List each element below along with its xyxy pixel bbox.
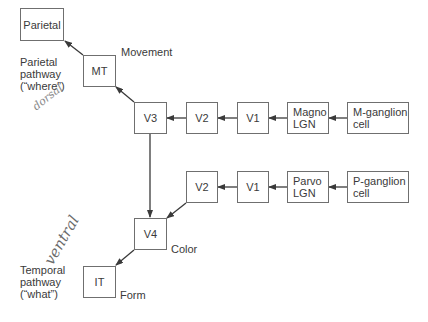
arrow-v4-to-it	[116, 250, 134, 265]
node-v1-bottom-label: V1	[246, 181, 259, 193]
node-v2-top: V2	[186, 102, 218, 134]
node-v1-bottom: V1	[237, 171, 269, 203]
node-it: IT	[83, 266, 116, 298]
node-v4-label: V4	[144, 228, 157, 240]
node-mt-label: MT	[92, 65, 108, 77]
node-magno-lgn: Magno LGN	[287, 102, 329, 134]
node-m-ganglion: M-ganglion cell	[347, 102, 409, 134]
arrow-v3-to-mt	[116, 87, 134, 102]
label-movement: Movement	[121, 46, 172, 58]
node-v2-bottom: V2	[186, 171, 218, 203]
node-v4: V4	[134, 218, 167, 250]
arrow-v2-to-v4	[167, 203, 186, 218]
node-p-ganglion: P-ganglion cell	[347, 171, 409, 203]
node-it-label: IT	[95, 276, 105, 288]
node-parietal: Parietal	[20, 8, 64, 41]
node-p-ganglion-label: P-ganglion cell	[353, 175, 406, 199]
node-m-ganglion-label: M-ganglion cell	[353, 106, 407, 130]
node-v3: V3	[134, 102, 167, 134]
node-parietal-label: Parietal	[23, 19, 60, 31]
node-v1-top: V1	[237, 102, 269, 134]
node-magno-lgn-label: Magno LGN	[293, 106, 327, 130]
node-v2-bottom-label: V2	[195, 181, 208, 193]
label-temporal-pathway: Temporal pathway (“what”)	[20, 264, 65, 300]
label-color: Color	[171, 243, 197, 255]
arrow-mt-to-parietal	[65, 41, 83, 55]
node-v3-label: V3	[144, 112, 157, 124]
node-parvo-lgn-label: Parvo LGN	[293, 175, 322, 199]
label-form: Form	[120, 289, 146, 301]
node-parvo-lgn: Parvo LGN	[287, 171, 329, 203]
node-v1-top-label: V1	[246, 112, 259, 124]
node-mt: MT	[83, 55, 116, 87]
node-v2-top-label: V2	[195, 112, 208, 124]
